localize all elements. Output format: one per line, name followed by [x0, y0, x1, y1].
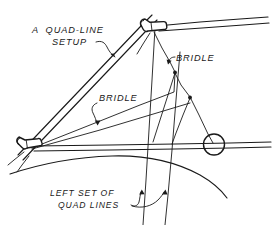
bridle-left-assembly — [32, 73, 190, 149]
left-set-label-line1: LEFT SET OF — [50, 188, 114, 198]
left-set-arrowhead-front — [139, 189, 144, 194]
kite-sail-arc — [10, 156, 227, 198]
left-set-arrowhead-back — [162, 190, 167, 195]
label-left-set-quad-lines: LEFT SET OF QUAD LINES — [50, 188, 168, 210]
quad-line-setup-label-line1: A QUAD-LINE — [31, 25, 104, 35]
quad-line-back — [165, 52, 180, 225]
quad-line-front — [143, 28, 155, 225]
quad-line-setup-label-line2: SETUP — [52, 37, 87, 47]
bridle-junction-lower — [188, 96, 192, 100]
quad-line-diagram: A QUAD-LINE SETUP BRIDLE BRIDLE LEFT SET… — [0, 0, 273, 225]
bridle-junction-upper — [173, 71, 177, 75]
bridle-top-leg — [154, 32, 175, 72]
kite-spreader-lines — [34, 142, 271, 151]
top-grip-lower-leg — [137, 33, 150, 54]
diagram-canvas: A QUAD-LINE SETUP BRIDLE BRIDLE LEFT SET… — [0, 0, 273, 225]
top-handle-grip — [140, 19, 166, 31]
bridle-v-legs — [153, 73, 213, 144]
label-quad-line-setup: A QUAD-LINE SETUP — [31, 25, 116, 58]
left-set-label-line2: QUAD LINES — [58, 200, 119, 210]
kite-leading-edge-upper — [157, 17, 269, 31]
bridle-left-label: BRIDLE — [99, 93, 138, 103]
label-bridle-right: BRIDLE — [167, 53, 215, 64]
bridle-right-label: BRIDLE — [176, 53, 215, 63]
tow-ring — [204, 134, 225, 155]
